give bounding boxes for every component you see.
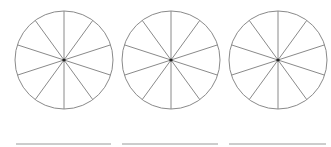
sector-divider [278,60,325,75]
center-dot [169,58,172,61]
sector-divider [231,45,278,60]
sector-divider [64,60,111,75]
fraction-circle-2 [122,11,220,109]
circles-group [15,11,327,109]
sector-divider [142,60,171,100]
sector-divider [278,20,307,60]
center-dot [276,58,279,61]
sector-divider [124,45,171,60]
fraction-circle-1 [15,11,113,109]
sector-divider [35,20,64,60]
sector-divider [124,60,171,75]
center-dot [62,58,65,61]
sector-divider [64,20,93,60]
sector-divider [171,60,200,100]
sector-divider [231,60,278,75]
sector-divider [249,20,278,60]
sector-divider [278,60,307,100]
fraction-circles-diagram [0,0,331,147]
sector-divider [17,45,64,60]
sector-divider [64,60,93,100]
fraction-circle-3 [229,11,327,109]
sector-divider [171,45,218,60]
sector-divider [35,60,64,100]
sector-divider [142,20,171,60]
sector-divider [17,60,64,75]
sector-divider [249,60,278,100]
sector-divider [171,20,200,60]
sector-divider [171,60,218,75]
sector-divider [278,45,325,60]
sector-divider [64,45,111,60]
